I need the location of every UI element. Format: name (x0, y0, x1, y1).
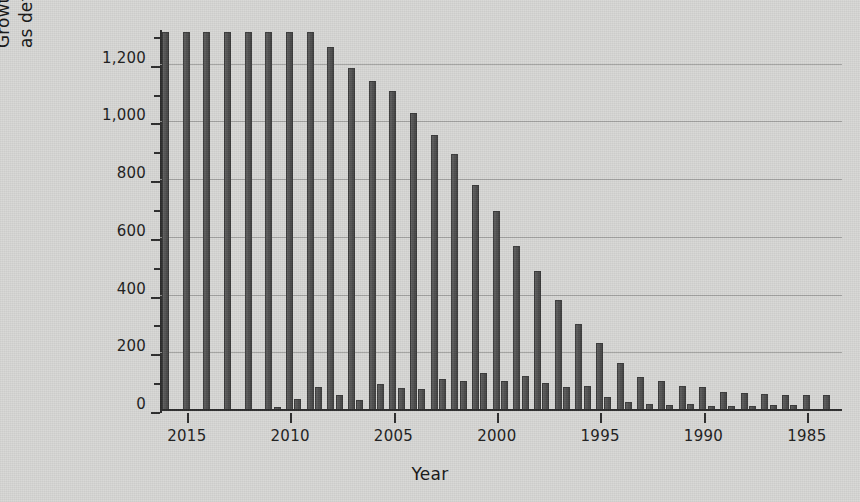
bar-group (449, 30, 470, 411)
bar-cumulative-2011 (265, 32, 272, 411)
bar-cumulative-2008 (327, 47, 334, 411)
bar-annual-2002 (460, 381, 467, 411)
bar-cumulative-2005 (389, 91, 396, 411)
bar-annual-2001 (480, 373, 487, 411)
bar-annual-1999 (522, 376, 529, 411)
bar-annual-2004 (418, 389, 425, 411)
bar-group (780, 30, 801, 411)
bar-cumulative-1993 (637, 377, 644, 411)
y-tick-400 (151, 297, 160, 299)
bar-annual-2000 (501, 381, 508, 411)
bar-cumulative-2003 (431, 135, 438, 411)
bar-cumulative-2010 (286, 32, 293, 411)
bar-group (201, 30, 222, 411)
bar-cumulative-2016 (162, 32, 169, 411)
bar-group (532, 30, 553, 411)
bar-group (511, 30, 532, 411)
bar-cumulative-1995 (596, 343, 603, 411)
bar-cumulative-1996 (575, 324, 582, 411)
bar-group (697, 30, 718, 411)
chart-figure: Growth of unique folds as defined by CAT… (0, 0, 860, 502)
bar-group (181, 30, 202, 411)
bar-group (470, 30, 491, 411)
x-tick-label-1995: 1995 (581, 427, 620, 445)
y-tick-label-1200: 1,200 (102, 49, 146, 67)
bar-cumulative-2002 (451, 154, 458, 411)
bar-cumulative-2006 (369, 81, 376, 411)
bar-group (491, 30, 512, 411)
bar-group (305, 30, 326, 411)
bar-group (222, 30, 243, 411)
bar-group (594, 30, 615, 411)
x-tick-label-2005: 2005 (374, 427, 413, 445)
x-tick-2005 (394, 413, 396, 423)
bar-cumulative-2007 (348, 68, 355, 411)
bar-cumulative-1991 (679, 386, 686, 411)
y-tick-200 (151, 354, 160, 356)
bar-group (635, 30, 656, 411)
plot-area (160, 30, 842, 411)
bar-group (346, 30, 367, 411)
bar-cumulative-1994 (617, 363, 624, 411)
y-tick-600 (151, 239, 160, 241)
x-axis-title: Year (0, 464, 860, 484)
y-tick-1000 (151, 123, 160, 125)
bar-cumulative-1990 (699, 387, 706, 411)
bar-cumulative-1997 (555, 300, 562, 411)
x-tick-2015 (187, 413, 189, 423)
bar-annual-1998 (542, 383, 549, 411)
x-tick-1995 (600, 413, 602, 423)
bar-group (160, 30, 181, 411)
bar-annual-2003 (439, 379, 446, 411)
bar-annual-1996 (584, 386, 591, 411)
x-axis-ticks: 2015201020052000199519901985 (0, 411, 860, 471)
bar-group (821, 30, 842, 411)
bar-annual-2009 (315, 387, 322, 411)
x-tick-label-1990: 1990 (684, 427, 723, 445)
bar-annual-2006 (377, 384, 384, 411)
bar-group (573, 30, 594, 411)
bar-cumulative-2009 (307, 32, 314, 411)
bar-group (801, 30, 822, 411)
bar-group (284, 30, 305, 411)
bar-group (243, 30, 264, 411)
y-tick-label-600: 600 (117, 222, 146, 240)
bar-group (615, 30, 636, 411)
y-tick-label-400: 400 (117, 280, 146, 298)
x-tick-1990 (704, 413, 706, 423)
bar-group (263, 30, 284, 411)
bar-cumulative-2013 (224, 32, 231, 411)
bar-group (739, 30, 760, 411)
x-tick-2010 (290, 413, 292, 423)
y-axis-ticks: 02004006008001,0001,200 (0, 30, 160, 413)
bar-cumulative-1999 (513, 246, 520, 411)
bar-annual-1997 (563, 387, 570, 411)
x-tick-label-2010: 2010 (271, 427, 310, 445)
bar-annual-2005 (398, 388, 405, 411)
bar-cumulative-2015 (183, 32, 190, 411)
bar-cumulative-1998 (534, 271, 541, 411)
bar-cumulative-2004 (410, 113, 417, 411)
x-tick-1985 (807, 413, 809, 423)
bar-cumulative-2014 (203, 32, 210, 411)
bar-group (429, 30, 450, 411)
bar-group (367, 30, 388, 411)
y-tick-label-200: 200 (117, 337, 146, 355)
bar-cumulative-1992 (658, 381, 665, 411)
y-tick-800 (151, 181, 160, 183)
x-tick-label-2015: 2015 (167, 427, 206, 445)
bar-cumulative-2012 (245, 32, 252, 411)
bar-group (408, 30, 429, 411)
bar-group (325, 30, 346, 411)
x-tick-label-2000: 2000 (477, 427, 516, 445)
x-tick-2000 (497, 413, 499, 423)
y-tick-label-1000: 1,000 (102, 106, 146, 124)
y-tick-label-800: 800 (117, 164, 146, 182)
bar-cumulative-2001 (472, 185, 479, 411)
x-tick-label-1985: 1985 (787, 427, 826, 445)
bar-group (656, 30, 677, 411)
bar-group (759, 30, 780, 411)
y-tick-1200 (151, 66, 160, 68)
bar-group (387, 30, 408, 411)
bar-cumulative-2000 (493, 211, 500, 411)
